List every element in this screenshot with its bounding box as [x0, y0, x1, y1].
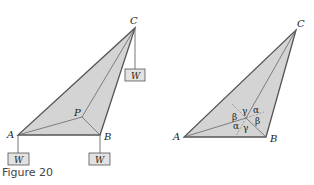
vertex-label-b-right: B — [269, 133, 277, 144]
vertex-label-b: B — [103, 131, 111, 142]
figure-canvas: W W W A B C P γ α β β α γ A B C — [0, 0, 314, 185]
vertex-label-c-right: C — [297, 18, 305, 29]
weight-label-b: W — [95, 155, 105, 165]
angle-beta-right: β — [255, 116, 260, 126]
weight-label-a: W — [14, 155, 24, 165]
vertex-label-a: A — [6, 129, 14, 140]
weight-label-c: W — [131, 71, 141, 81]
figure-caption: Figure 20 — [2, 166, 53, 179]
vertex-label-p: P — [73, 107, 81, 118]
right-diagram: γ α β β α γ A B C — [172, 18, 305, 144]
angle-gamma-top: γ — [242, 106, 247, 116]
vertex-label-c: C — [130, 15, 138, 26]
angle-alpha-bottom: α — [233, 121, 239, 131]
triangle-abc-right — [184, 30, 296, 137]
left-diagram: W W W A B C P — [6, 15, 145, 165]
vertex-label-a-right: A — [172, 131, 180, 142]
angle-gamma-bottom: γ — [243, 123, 248, 133]
angle-alpha-top: α — [253, 105, 259, 115]
